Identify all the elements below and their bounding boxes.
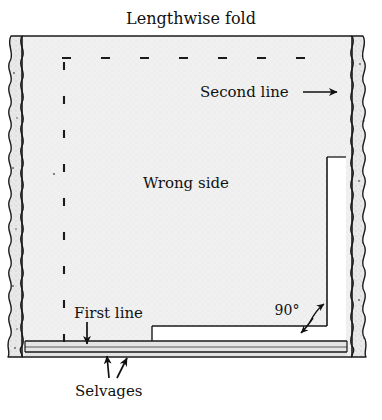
second-line-label: Second line bbox=[200, 83, 289, 101]
hem-band-fill bbox=[25, 341, 347, 356]
selvages-hem-band bbox=[25, 341, 347, 356]
right-selvage-shape bbox=[351, 36, 367, 357]
selvages-label: Selvages bbox=[75, 382, 143, 400]
stray-marks bbox=[53, 173, 55, 175]
wrong-side-label: Wrong side bbox=[143, 174, 229, 192]
fabric-diagram: Lengthwise fold Second line Wrong side F… bbox=[0, 0, 382, 420]
left-selvage-shape bbox=[8, 36, 24, 357]
right-selvage-edge bbox=[351, 36, 367, 357]
first-line-label: First line bbox=[74, 304, 143, 322]
left-selvage-edge bbox=[8, 36, 24, 357]
selvages-arrow-right bbox=[117, 358, 127, 378]
lengthwise-fold-label: Lengthwise fold bbox=[126, 9, 256, 28]
right-angle-label: 90° bbox=[275, 302, 300, 318]
fabric-body bbox=[22, 36, 352, 357]
fabric-wrong-side-area bbox=[22, 36, 352, 357]
selvages-arrow-left bbox=[107, 356, 109, 378]
fabric-diagram-canvas: Lengthwise fold Second line Wrong side F… bbox=[0, 0, 382, 420]
